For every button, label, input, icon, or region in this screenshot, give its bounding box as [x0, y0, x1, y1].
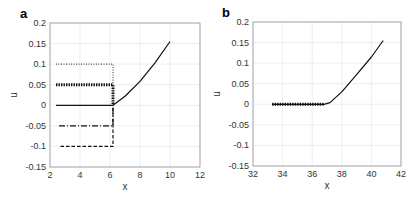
y-tick-label: 0.05 — [231, 79, 249, 89]
panel-label: a — [20, 6, 28, 21]
chart-panel-b: 323436384042-0.15-0.1-0.0500.050.10.150.… — [211, 5, 406, 191]
x-tick-label: 40 — [366, 169, 376, 179]
y-tick-label: 0.05 — [28, 80, 46, 90]
y-tick-label: 0.2 — [33, 18, 46, 28]
y-tick-label: -0.05 — [25, 121, 46, 131]
panel-label: b — [222, 5, 230, 20]
y-tick-label: 0 — [244, 99, 249, 109]
y-axis-label: u — [211, 91, 222, 97]
y-tick-label: -0.1 — [233, 140, 249, 150]
x-axis-label: x — [325, 180, 330, 191]
x-tick-label: 2 — [47, 170, 52, 180]
y-tick-label: 0.1 — [33, 59, 46, 69]
x-tick-label: 10 — [165, 170, 175, 180]
y-tick-label: 0.2 — [236, 17, 249, 27]
y-tick-label: 0 — [41, 100, 46, 110]
y-axis-label: u — [8, 92, 19, 98]
x-tick-label: 34 — [278, 169, 288, 179]
x-tick-label: 12 — [195, 170, 205, 180]
y-tick-label: 0.15 — [231, 38, 249, 48]
x-tick-label: 4 — [77, 170, 82, 180]
y-tick-label: -0.05 — [228, 120, 249, 130]
y-tick-label: -0.15 — [228, 161, 249, 171]
y-tick-label: 0.1 — [236, 58, 249, 68]
y-tick-label: -0.1 — [30, 141, 46, 151]
y-tick-label: -0.15 — [25, 162, 46, 172]
figure: 24681012-0.15-0.1-0.0500.050.10.150.2xua… — [0, 0, 420, 197]
chart-panel-a: 24681012-0.15-0.1-0.0500.050.10.150.2xua — [8, 6, 205, 192]
x-tick-label: 42 — [396, 169, 406, 179]
x-tick-label: 36 — [307, 169, 317, 179]
y-tick-label: 0.15 — [28, 39, 46, 49]
x-tick-label: 6 — [107, 170, 112, 180]
x-tick-label: 8 — [137, 170, 142, 180]
x-tick-label: 38 — [337, 169, 347, 179]
x-axis-label: x — [123, 181, 128, 192]
x-tick-label: 32 — [248, 169, 258, 179]
